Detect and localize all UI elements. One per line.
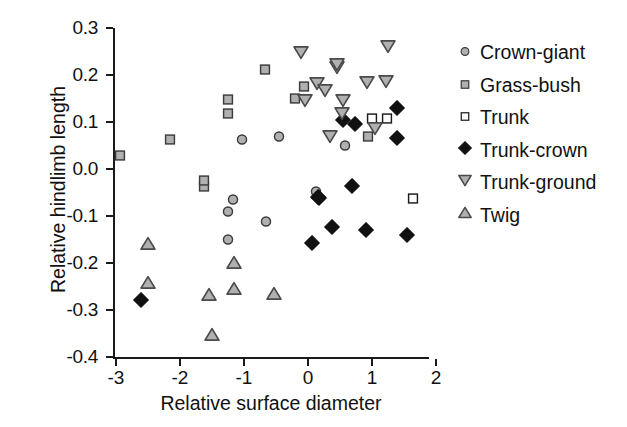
triangle-down-glyph bbox=[292, 43, 309, 60]
data-point bbox=[367, 119, 384, 140]
data-point bbox=[378, 72, 395, 93]
data-point bbox=[339, 138, 352, 156]
x-axis-line bbox=[113, 357, 429, 359]
triangle-down-glyph bbox=[378, 72, 395, 89]
data-point bbox=[366, 111, 379, 129]
chart-legend: Crown-giantGrass-bushTrunkTrunk-crownTru… bbox=[455, 36, 625, 231]
triangle-up-glyph bbox=[204, 326, 221, 343]
legend-label: Trunk bbox=[480, 107, 529, 127]
data-point bbox=[222, 92, 235, 110]
triangle-down-glyph bbox=[296, 91, 313, 108]
data-point bbox=[358, 221, 375, 242]
diamond-filled-glyph bbox=[335, 112, 352, 129]
data-point bbox=[308, 74, 325, 95]
x-tick bbox=[243, 359, 245, 366]
triangle-down-glyph bbox=[367, 119, 384, 136]
data-point bbox=[289, 91, 302, 109]
data-point bbox=[388, 129, 405, 150]
data-point bbox=[222, 232, 235, 250]
data-point bbox=[317, 81, 334, 102]
x-tick-label: -1 bbox=[224, 368, 264, 387]
data-point bbox=[236, 132, 249, 150]
data-point bbox=[324, 219, 341, 240]
circle-marker bbox=[460, 43, 471, 61]
data-point bbox=[197, 179, 210, 197]
x-axis-title: Relative surface diameter bbox=[113, 392, 429, 415]
square-open-marker bbox=[460, 108, 471, 126]
circle-glyph bbox=[222, 233, 235, 246]
data-point bbox=[140, 275, 157, 296]
y-tick bbox=[106, 74, 113, 76]
square-filled-glyph bbox=[259, 63, 272, 76]
square-filled-glyph bbox=[362, 130, 375, 143]
diamond-filled-glyph bbox=[388, 129, 405, 146]
circle-glyph bbox=[273, 130, 286, 143]
data-point bbox=[328, 58, 345, 79]
diamond-filled-glyph bbox=[324, 219, 341, 236]
triangle-down-glyph bbox=[458, 173, 473, 188]
circle-glyph bbox=[310, 185, 323, 198]
data-point bbox=[200, 286, 217, 307]
legend-swatch bbox=[455, 75, 475, 95]
data-point bbox=[132, 292, 149, 313]
square-filled-glyph bbox=[113, 149, 126, 162]
x-tick-label: -3 bbox=[96, 368, 136, 387]
square-open-glyph bbox=[366, 112, 379, 125]
triangle-up-glyph bbox=[266, 285, 283, 302]
square-filled-glyph bbox=[222, 107, 235, 120]
x-tick-label: -2 bbox=[160, 368, 200, 387]
diamond-filled-glyph bbox=[303, 235, 320, 252]
data-point bbox=[140, 236, 157, 257]
triangle-down-glyph bbox=[308, 74, 325, 91]
legend-swatch bbox=[455, 172, 475, 192]
legend-swatch bbox=[455, 205, 475, 225]
data-point bbox=[310, 190, 327, 211]
legend-label: Trunk-crown bbox=[480, 140, 588, 160]
triangle-down-glyph bbox=[328, 58, 345, 75]
triangle-up-marker bbox=[458, 205, 473, 224]
legend-swatch bbox=[455, 42, 475, 62]
triangle-down-glyph bbox=[335, 91, 352, 108]
legend-item: Trunk-ground bbox=[455, 166, 625, 199]
y-tick bbox=[106, 356, 113, 358]
y-tick bbox=[106, 309, 113, 311]
data-point bbox=[333, 104, 350, 125]
square-open-glyph bbox=[406, 192, 419, 205]
legend-label: Grass-bush bbox=[480, 75, 581, 95]
square-open-glyph bbox=[460, 111, 471, 122]
square-filled-glyph bbox=[289, 92, 302, 105]
square-filled-glyph bbox=[163, 133, 176, 146]
diamond-filled-glyph bbox=[310, 190, 327, 207]
data-point bbox=[197, 173, 210, 191]
triangle-down-glyph bbox=[317, 81, 334, 98]
y-tick bbox=[106, 168, 113, 170]
circle-glyph bbox=[259, 215, 272, 228]
legend-item: Grass-bush bbox=[455, 69, 625, 102]
legend-item: Trunk-crown bbox=[455, 134, 625, 167]
circle-glyph bbox=[227, 193, 240, 206]
data-point bbox=[358, 73, 375, 94]
circle-glyph bbox=[460, 46, 471, 57]
data-point bbox=[335, 91, 352, 112]
y-tick bbox=[106, 27, 113, 29]
data-point bbox=[222, 204, 235, 222]
y-tick-label: 0.3 bbox=[42, 18, 98, 37]
triangle-up-glyph bbox=[225, 281, 242, 298]
y-tick bbox=[106, 215, 113, 217]
data-point bbox=[321, 127, 338, 148]
data-point bbox=[406, 191, 419, 209]
square-filled-glyph bbox=[197, 174, 210, 187]
circle-glyph bbox=[236, 133, 249, 146]
diamond-filled-glyph bbox=[344, 177, 361, 194]
data-point bbox=[227, 192, 240, 210]
legend-item: Crown-giant bbox=[455, 36, 625, 69]
data-point bbox=[292, 43, 309, 64]
data-point bbox=[335, 112, 352, 133]
legend-label: Trunk-ground bbox=[480, 172, 596, 192]
legend-item: Twig bbox=[455, 199, 625, 232]
y-axis-line bbox=[113, 28, 115, 359]
x-tick bbox=[435, 359, 437, 366]
triangle-up-glyph bbox=[225, 254, 242, 271]
circle-glyph bbox=[339, 139, 352, 152]
data-point bbox=[259, 62, 272, 80]
